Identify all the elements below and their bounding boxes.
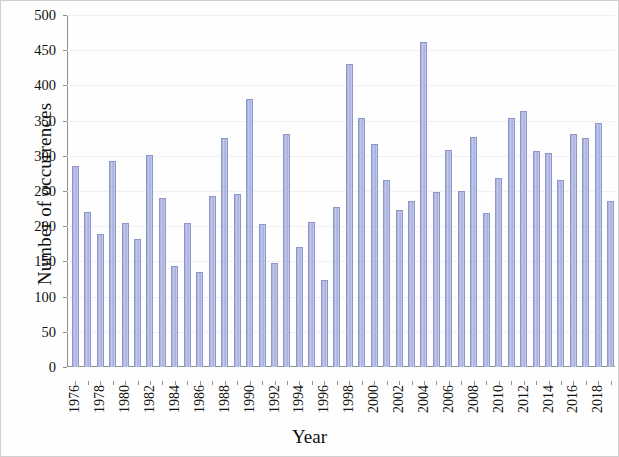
bar — [122, 223, 129, 367]
bar — [159, 198, 166, 367]
x-tick-label: 1994 — [292, 385, 306, 413]
bar — [171, 266, 178, 367]
bar — [582, 138, 589, 367]
bar — [146, 155, 153, 367]
bar — [296, 247, 303, 367]
x-axis-title: Year — [1, 426, 618, 448]
bar — [383, 180, 390, 367]
bar — [72, 166, 79, 367]
bar — [184, 223, 191, 367]
x-tick-mark — [486, 381, 487, 385]
y-tick-label: 150 — [4, 254, 56, 269]
bar — [607, 201, 614, 367]
y-tick-label: 400 — [4, 78, 56, 93]
bar — [97, 234, 104, 367]
bar — [259, 224, 266, 367]
x-tick-label: 2012 — [517, 385, 531, 413]
x-tick-label: 2014 — [542, 385, 556, 413]
bar — [234, 194, 241, 367]
y-tick-label: 0 — [4, 360, 56, 375]
x-tick-mark — [412, 381, 413, 385]
x-tick-label: 2008 — [467, 385, 481, 413]
x-tick-mark — [461, 381, 462, 385]
bar — [508, 118, 515, 367]
x-tick-mark — [561, 381, 562, 385]
bar — [134, 239, 141, 367]
y-tick-label: 50 — [4, 325, 56, 340]
x-tick-label: 1980 — [118, 385, 132, 413]
bar — [333, 207, 340, 368]
x-tick-mark — [88, 381, 89, 385]
bar — [433, 192, 440, 367]
x-tick-label: 1976 — [68, 385, 82, 413]
y-tick-label: 100 — [4, 289, 56, 304]
bar — [283, 134, 290, 367]
x-tick-mark — [362, 381, 363, 385]
bar — [321, 280, 328, 367]
x-tick-mark — [287, 381, 288, 385]
y-tick-mark — [63, 367, 67, 368]
bar — [396, 210, 403, 367]
plot-area: 050100150200250300350400450500 197619781… — [67, 15, 615, 367]
bar — [84, 212, 91, 367]
x-tick-mark — [237, 381, 238, 385]
bar-chart-figure: Number of occurrences 050100150200250300… — [0, 0, 619, 457]
x-tick-mark — [611, 381, 612, 385]
bar — [570, 134, 577, 367]
x-tick-mark — [212, 381, 213, 385]
bar-series — [67, 15, 615, 367]
y-tick-label: 200 — [4, 219, 56, 234]
x-tick-mark — [511, 381, 512, 385]
x-tick-mark — [337, 381, 338, 385]
x-tick-label: 2006 — [442, 385, 456, 413]
bar — [545, 153, 552, 367]
bar — [557, 180, 564, 367]
y-tick-label: 450 — [4, 43, 56, 58]
x-tick-mark — [387, 381, 388, 385]
x-tick-label: 2002 — [392, 385, 406, 413]
bar — [445, 150, 452, 367]
x-tick-label: 1986 — [193, 385, 207, 413]
x-tick-label: 2018 — [591, 385, 605, 413]
bar — [246, 99, 253, 367]
y-tick-label: 500 — [4, 8, 56, 23]
bar — [358, 118, 365, 367]
x-tick-mark — [312, 381, 313, 385]
x-tick-mark — [187, 381, 188, 385]
x-tick-label: 1992 — [268, 385, 282, 413]
bar — [308, 222, 315, 367]
x-tick-label: 1978 — [93, 385, 107, 413]
bar — [595, 123, 602, 367]
x-tick-label: 1984 — [168, 385, 182, 413]
x-tick-label: 1996 — [317, 385, 331, 413]
x-tick-label: 2010 — [492, 385, 506, 413]
bar — [495, 178, 502, 367]
y-tick-label: 300 — [4, 149, 56, 164]
bar — [458, 191, 465, 367]
x-tick-mark — [162, 381, 163, 385]
x-tick-mark — [138, 381, 139, 385]
x-tick-mark — [436, 381, 437, 385]
bar — [209, 196, 216, 367]
bar — [408, 201, 415, 367]
x-tick-label: 1990 — [243, 385, 257, 413]
bar — [533, 151, 540, 367]
x-tick-label: 1982 — [143, 385, 157, 413]
x-tick-mark — [536, 381, 537, 385]
x-tick-label: 1998 — [342, 385, 356, 413]
bar — [346, 64, 353, 367]
x-tick-label: 1988 — [218, 385, 232, 413]
bar — [470, 137, 477, 367]
y-tick-label: 350 — [4, 113, 56, 128]
bar — [371, 144, 378, 367]
x-tick-mark — [113, 381, 114, 385]
bar — [271, 263, 278, 367]
bar — [109, 161, 116, 367]
x-tick-label: 2004 — [417, 385, 431, 413]
bar — [420, 42, 427, 367]
x-tick-mark — [586, 381, 587, 385]
bar — [483, 213, 490, 367]
bar — [196, 272, 203, 367]
bar — [221, 138, 228, 368]
x-tick-label: 2016 — [566, 385, 580, 413]
